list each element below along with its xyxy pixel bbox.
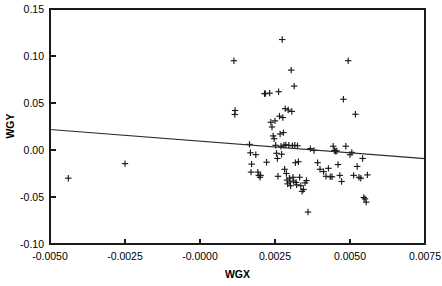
- data-point-marker: [278, 151, 284, 157]
- data-point-marker: [290, 174, 296, 180]
- data-point-marker: [325, 165, 331, 171]
- data-point-marker: [277, 131, 283, 137]
- data-point-marker: [314, 159, 320, 165]
- data-point-marker: [337, 172, 343, 178]
- regression-fit-line: [50, 130, 425, 159]
- data-point-marker: [292, 159, 298, 165]
- data-point-marker: [65, 175, 71, 181]
- data-point-marker: [305, 209, 311, 215]
- x-tick-label: -0.0025: [107, 250, 143, 262]
- data-point-marker: [289, 108, 295, 114]
- data-point-marker: [232, 111, 238, 117]
- y-tick-label: 0.00: [24, 144, 45, 156]
- x-axis-ticks: [50, 239, 425, 244]
- data-point-marker: [280, 114, 286, 120]
- data-point-marker: [282, 105, 288, 111]
- data-point-marker: [279, 36, 285, 42]
- data-point-marker: [291, 83, 297, 89]
- trend-line: [50, 130, 425, 159]
- data-point-marker: [288, 67, 294, 73]
- data-point-marker: [268, 119, 274, 125]
- y-tick-label: 0.15: [24, 3, 45, 15]
- x-tick-label: 0.0025: [259, 250, 291, 262]
- data-point-marker: [266, 90, 272, 96]
- data-point-marker: [362, 196, 368, 202]
- data-point-marker: [269, 124, 275, 130]
- data-point-marker: [278, 143, 284, 149]
- data-point-marker: [276, 113, 282, 119]
- data-point-marker: [364, 172, 370, 178]
- y-tick-label: 0.05: [24, 97, 45, 109]
- data-point-marker: [275, 89, 281, 95]
- data-point-marker: [231, 58, 237, 64]
- chart-canvas: -0.10-0.050.000.050.100.15 -0.0050-0.002…: [0, 0, 442, 286]
- x-tick-label: -0.0000: [182, 250, 218, 262]
- data-point-marker: [271, 136, 277, 142]
- x-tick-label: 0.0075: [409, 250, 441, 262]
- data-point-marker: [122, 160, 128, 166]
- data-point-marker: [295, 159, 301, 165]
- x-tick-label: -0.0050: [32, 250, 68, 262]
- x-tick-label: 0.0050: [334, 250, 366, 262]
- data-point-marker: [285, 107, 291, 113]
- data-point-marker: [354, 163, 360, 169]
- y-tick-label: -0.05: [20, 191, 44, 203]
- data-point-marker: [274, 155, 280, 161]
- y-tick-label: 0.10: [24, 50, 45, 62]
- x-axis-tick-labels: -0.0050-0.0025-0.00000.00250.00500.0075: [32, 250, 441, 262]
- data-point-marker: [296, 174, 302, 180]
- scatter-data-points: [65, 36, 371, 215]
- data-point-marker: [340, 96, 346, 102]
- data-point-marker: [359, 155, 365, 161]
- data-point-marker: [338, 178, 344, 184]
- data-point-marker: [248, 161, 254, 167]
- data-point-marker: [345, 58, 351, 64]
- y-axis-tick-labels: -0.10-0.050.000.050.100.15: [20, 3, 44, 250]
- plot-frame: [50, 9, 425, 244]
- data-point-marker: [343, 143, 349, 149]
- data-point-marker: [273, 150, 279, 156]
- data-point-marker: [275, 173, 281, 179]
- data-point-marker: [335, 161, 341, 167]
- x-axis-title: WGX: [225, 268, 250, 280]
- data-point-marker: [270, 133, 276, 139]
- data-point-marker: [280, 129, 286, 135]
- y-tick-label: -0.10: [20, 238, 44, 250]
- y-axis-title: WGY: [4, 113, 16, 138]
- data-point-marker: [248, 169, 254, 175]
- data-point-marker: [272, 118, 278, 124]
- data-point-marker: [352, 111, 358, 117]
- plot-area-border: [50, 9, 425, 244]
- scatter-plot-figure: -0.10-0.050.000.050.100.15 -0.0050-0.002…: [0, 0, 442, 286]
- y-axis-ticks: [50, 9, 56, 244]
- data-point-marker: [263, 159, 269, 165]
